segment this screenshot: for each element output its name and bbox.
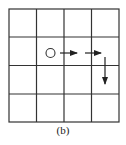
figure-caption: (b) [0, 124, 126, 136]
start-circle-icon [46, 49, 55, 58]
grid-lines [9, 9, 119, 122]
